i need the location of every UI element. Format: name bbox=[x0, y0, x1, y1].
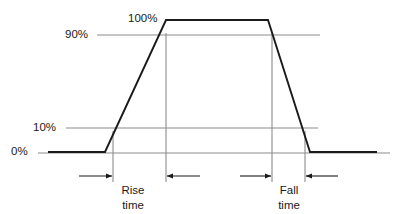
fall-time-label: Fall time bbox=[254, 183, 324, 213]
fall-time-label-line2: time bbox=[254, 198, 324, 213]
label-10-percent: 10% bbox=[33, 121, 56, 134]
label-100-percent: 100% bbox=[128, 12, 157, 25]
label-0-percent: 0% bbox=[11, 145, 28, 158]
label-90-percent: 90% bbox=[65, 28, 88, 41]
rise-time-label-line1: Rise bbox=[98, 183, 168, 198]
rise-time-label-line2: time bbox=[98, 198, 168, 213]
waveform-diagram: 100% 90% 10% 0% Rise time Fall time bbox=[0, 0, 399, 214]
rise-time-label: Rise time bbox=[98, 183, 168, 213]
pulse-waveform bbox=[48, 20, 377, 152]
diagram-canvas bbox=[0, 0, 399, 214]
fall-time-label-line1: Fall bbox=[254, 183, 324, 198]
